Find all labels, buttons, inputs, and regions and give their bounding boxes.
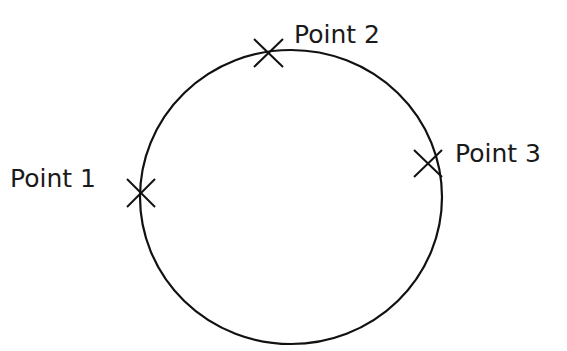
point-3-label: Point 3 <box>455 139 541 168</box>
diagram-canvas: Point 1 Point 2 Point 3 <box>0 0 567 351</box>
circle <box>140 50 442 344</box>
point-2-label: Point 2 <box>294 20 380 49</box>
point-1-label: Point 1 <box>10 164 96 193</box>
